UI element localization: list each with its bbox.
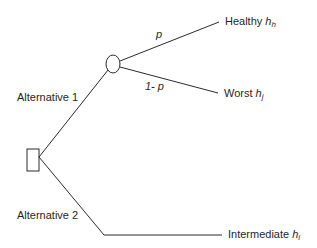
chance-node — [106, 55, 120, 73]
outcome-intermediate-name: Intermediate — [228, 228, 289, 240]
decision-node — [27, 149, 39, 171]
outcome-worst: Worst hj — [224, 87, 264, 100]
alternative-2-branch — [39, 157, 222, 235]
outcome-healthy-name: Healthy — [225, 15, 262, 27]
outcome-intermediate: Intermediate hi — [228, 228, 300, 241]
probability-p-label: p — [156, 28, 162, 41]
probability-p-branch — [120, 22, 219, 61]
alternative-1-branch — [39, 70, 108, 157]
outcome-intermediate-subscript: i — [298, 233, 300, 242]
probability-1-minus-p-branch — [120, 67, 218, 93]
probability-1-minus-p-label: 1- p — [145, 80, 164, 93]
alternative-2-label: Alternative 2 — [17, 209, 78, 222]
decision-tree-diagram: Alternative 1 Alternative 2 p 1- p Healt… — [0, 0, 317, 248]
outcome-healthy-subscript: h — [271, 20, 275, 29]
outcome-worst-name: Worst — [224, 87, 253, 99]
alternative-1-label: Alternative 1 — [17, 91, 78, 104]
outcome-healthy: Healthy hh — [225, 15, 276, 28]
outcome-worst-subscript: j — [262, 92, 264, 101]
